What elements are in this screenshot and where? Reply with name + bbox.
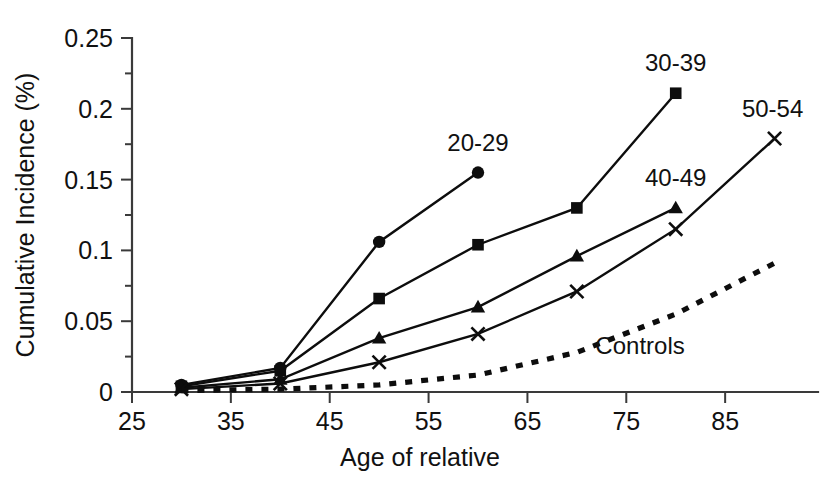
series-label-40-49: 40-49 [645, 164, 706, 191]
y-tick-label: 0 [99, 378, 113, 406]
x-tick-label: 65 [514, 407, 542, 435]
x-tick-label: 45 [316, 407, 344, 435]
series-label-50-54: 50-54 [742, 95, 803, 122]
marker-square [571, 202, 583, 214]
y-tick-label: 0.25 [64, 24, 113, 52]
marker-square [472, 239, 484, 251]
y-tick-label: 0.2 [78, 95, 113, 123]
cumulative-incidence-chart: 00.050.10.150.20.25 Cumulative Incidence… [0, 0, 830, 495]
marker-circle [373, 236, 385, 248]
chart-svg: 00.050.10.150.20.25 Cumulative Incidence… [0, 0, 830, 495]
x-tick-label: 75 [612, 407, 640, 435]
x-tick-label: 55 [415, 407, 443, 435]
series-label-20-29: 20-29 [447, 129, 508, 156]
y-axis-title: Cumulative Incidence (%) [11, 73, 39, 358]
y-tick-label: 0.1 [78, 236, 113, 264]
y-tick-label: 0.15 [64, 166, 113, 194]
marker-square [670, 87, 682, 99]
x-tick-label: 85 [711, 407, 739, 435]
marker-circle [472, 166, 484, 178]
series-label-30-39: 30-39 [645, 49, 706, 76]
x-tick-label: 35 [217, 407, 245, 435]
series-label-controls: Controls [595, 332, 684, 359]
y-tick-label: 0.05 [64, 307, 113, 335]
x-tick-label: 25 [118, 407, 146, 435]
marker-square [373, 293, 385, 305]
x-axis-title: Age of relative [340, 443, 500, 471]
